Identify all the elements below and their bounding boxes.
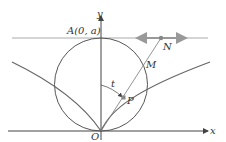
x-axis-label: x — [210, 125, 216, 136]
curve-right-branch — [101, 62, 210, 131]
cissoid-diagram: y x A(0, a) N M P O t — [0, 0, 226, 142]
point-a-label: A(0, a) — [66, 25, 101, 36]
point-n — [159, 36, 163, 40]
point-p-label: P — [126, 95, 134, 106]
point-n-label: N — [162, 41, 173, 52]
angle-t-label: t — [111, 78, 116, 89]
y-axis-label: y — [96, 8, 103, 19]
point-p — [122, 96, 126, 100]
point-m-label: M — [145, 59, 157, 70]
origin-label: O — [91, 131, 99, 142]
ray-o-to-n — [101, 38, 161, 131]
